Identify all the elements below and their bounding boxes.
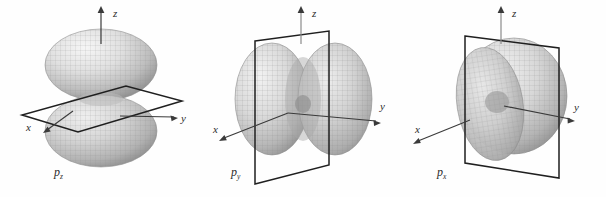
axis-label-x: x (212, 123, 218, 135)
panel-py: z y x py (202, 0, 404, 197)
orbital-name-py: py (230, 165, 241, 181)
orbital-waist-shadow (79, 92, 123, 106)
axis-z (298, 6, 305, 44)
axis-label-z: z (311, 7, 317, 19)
axis-label-y: y (379, 100, 385, 112)
orbital-core-shadow (295, 95, 311, 113)
axis-z (498, 6, 505, 44)
panel-pz: z y x pz (0, 0, 202, 197)
orbital-name-px: px (436, 165, 447, 181)
axis-label-z: z (112, 7, 118, 19)
orbital-name-pz: pz (53, 165, 63, 181)
axis-label-y: y (573, 101, 579, 113)
axis-label-z: z (511, 7, 517, 19)
panel-px: z y x px (404, 0, 606, 197)
axis-label-y: y (180, 112, 186, 124)
orbital-core-shadow (485, 91, 509, 113)
p-orbital-figure: z y x pz (0, 0, 606, 197)
axis-x (413, 120, 470, 144)
axis-label-x: x (414, 123, 420, 135)
axis-label-x: x (25, 121, 31, 133)
